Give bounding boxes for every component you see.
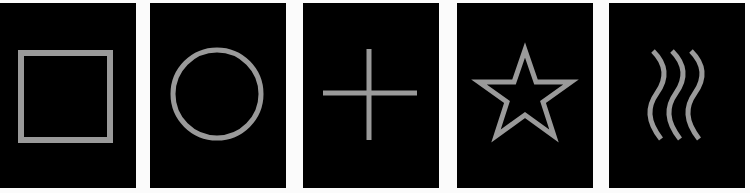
- wavy-lines-icon: [609, 3, 745, 188]
- plus-icon: [303, 3, 439, 188]
- star-icon: [457, 3, 593, 188]
- card-star: Star: [457, 3, 593, 188]
- card-waves: Wavy lines: [609, 3, 745, 188]
- card-square: Square: [0, 3, 136, 188]
- card-circle: Circle: [150, 3, 286, 188]
- card-plus: Plus: [303, 3, 439, 188]
- circle-icon: [150, 3, 286, 188]
- square-icon: [0, 3, 136, 188]
